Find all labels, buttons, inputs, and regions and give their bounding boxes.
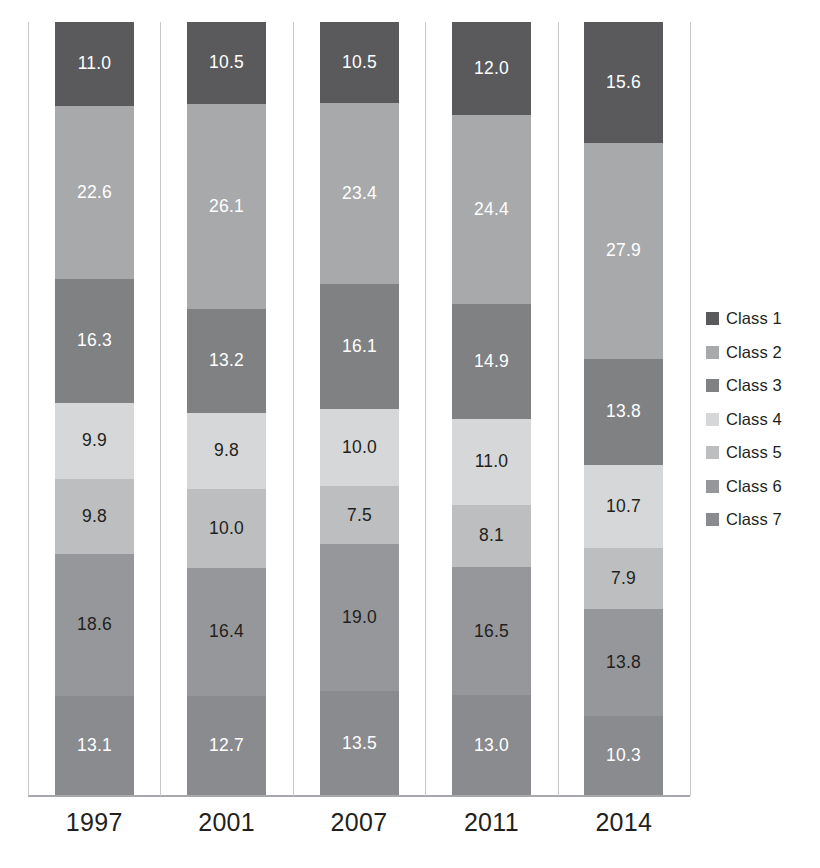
- bar-2014[interactable]: 15.627.913.810.77.913.810.3: [584, 22, 663, 796]
- grid-separator-line: [160, 22, 161, 796]
- segment-value-label: 9.8: [214, 442, 239, 460]
- bar-segment-2007-class-6[interactable]: 19.0: [320, 544, 399, 691]
- bar-segment-2014-class-7[interactable]: 10.3: [584, 716, 663, 796]
- segment-value-label: 7.9: [611, 570, 636, 588]
- segment-value-label: 16.3: [77, 332, 112, 350]
- segment-value-label: 7.5: [347, 507, 372, 525]
- bar-segment-2007-class-4[interactable]: 10.0: [320, 409, 399, 486]
- segment-value-label: 15.6: [606, 74, 641, 92]
- x-axis-tick-2011: 2011: [425, 808, 557, 837]
- bar-segment-2001-class-7[interactable]: 12.7: [187, 696, 266, 796]
- grid-separator-line: [425, 22, 426, 796]
- bar-segment-2001-class-2[interactable]: 26.1: [187, 104, 266, 309]
- legend-swatch-icon: [706, 346, 719, 359]
- legend-item-class-4[interactable]: Class 4: [706, 403, 812, 437]
- legend-item-class-5[interactable]: Class 5: [706, 436, 812, 470]
- bar-segment-2014-class-4[interactable]: 10.7: [584, 465, 663, 548]
- x-axis-tick-1997: 1997: [28, 808, 160, 837]
- segment-value-label: 9.8: [82, 508, 107, 526]
- bar-segment-2014-class-6[interactable]: 13.8: [584, 609, 663, 716]
- segment-value-label: 10.0: [209, 520, 244, 538]
- bar-segment-2014-class-5[interactable]: 7.9: [584, 548, 663, 609]
- grid-separator-line: [558, 22, 559, 796]
- segment-value-label: 10.5: [342, 54, 377, 72]
- legend-item-class-1[interactable]: Class 1: [706, 302, 812, 336]
- legend-label: Class 7: [726, 510, 782, 529]
- bar-segment-2011-class-1[interactable]: 12.0: [452, 22, 531, 115]
- grid-separator-line: [293, 22, 294, 796]
- bar-segment-2011-class-7[interactable]: 13.0: [452, 695, 531, 796]
- legend-label: Class 3: [726, 376, 782, 395]
- bar-segment-1997-class-2[interactable]: 22.6: [55, 106, 134, 279]
- bar-segment-2001-class-1[interactable]: 10.5: [187, 22, 266, 104]
- segment-value-label: 11.0: [78, 55, 112, 73]
- segment-value-label: 10.5: [209, 54, 244, 72]
- legend-label: Class 4: [726, 410, 782, 429]
- bar-2007[interactable]: 10.523.416.110.07.519.013.5: [320, 22, 399, 796]
- segment-value-label: 13.5: [342, 735, 377, 753]
- bar-segment-2011-class-4[interactable]: 11.0: [452, 419, 531, 504]
- bar-segment-2014-class-3[interactable]: 13.8: [584, 359, 663, 466]
- bar-segment-2011-class-6[interactable]: 16.5: [452, 567, 531, 695]
- segment-value-label: 27.9: [606, 242, 641, 260]
- bar-segment-2007-class-1[interactable]: 10.5: [320, 22, 399, 103]
- bar-segment-1997-class-6[interactable]: 18.6: [55, 554, 134, 696]
- legend-swatch-icon: [706, 513, 719, 526]
- segment-value-label: 24.4: [474, 201, 509, 219]
- stacked-bar-chart: 11.022.616.39.99.818.613.110.526.113.29.…: [0, 0, 820, 868]
- segment-value-label: 16.4: [209, 623, 244, 641]
- bar-segment-2007-class-3[interactable]: 16.1: [320, 284, 399, 409]
- legend-swatch-icon: [706, 480, 719, 493]
- segment-value-label: 12.7: [209, 737, 244, 755]
- legend-label: Class 6: [726, 477, 782, 496]
- legend-label: Class 2: [726, 343, 782, 362]
- segment-value-label: 12.0: [474, 60, 509, 78]
- segment-value-label: 13.0: [474, 737, 509, 755]
- segment-value-label: 8.1: [479, 527, 504, 545]
- bar-segment-2001-class-4[interactable]: 9.8: [187, 413, 266, 490]
- segment-value-label: 26.1: [209, 198, 244, 216]
- bar-1997[interactable]: 11.022.616.39.99.818.613.1: [55, 22, 134, 796]
- bar-segment-2011-class-3[interactable]: 14.9: [452, 304, 531, 419]
- bar-segment-1997-class-4[interactable]: 9.9: [55, 403, 134, 479]
- legend-swatch-icon: [706, 312, 719, 325]
- bar-segment-1997-class-7[interactable]: 13.1: [55, 696, 134, 796]
- plot-area: 11.022.616.39.99.818.613.110.526.113.29.…: [28, 22, 690, 796]
- segment-value-label: 23.4: [342, 185, 377, 203]
- legend-label: Class 1: [726, 309, 782, 328]
- x-axis-tick-2007: 2007: [293, 808, 425, 837]
- bar-segment-1997-class-3[interactable]: 16.3: [55, 279, 134, 404]
- bar-segment-2014-class-1[interactable]: 15.6: [584, 22, 663, 143]
- chart-title: [0, 0, 700, 8]
- legend-item-class-6[interactable]: Class 6: [706, 470, 812, 504]
- chart-legend: Class 1Class 2Class 3Class 4Class 5Class…: [706, 302, 812, 537]
- bar-segment-2007-class-7[interactable]: 13.5: [320, 691, 399, 795]
- bar-segment-2001-class-3[interactable]: 13.2: [187, 309, 266, 413]
- bar-2011[interactable]: 12.024.414.911.08.116.513.0: [452, 22, 531, 796]
- bar-segment-2007-class-5[interactable]: 7.5: [320, 486, 399, 544]
- legend-item-class-3[interactable]: Class 3: [706, 369, 812, 403]
- bar-segment-2001-class-5[interactable]: 10.0: [187, 489, 266, 567]
- x-axis-tick-2001: 2001: [160, 808, 292, 837]
- bar-2001[interactable]: 10.526.113.29.810.016.412.7: [187, 22, 266, 796]
- segment-value-label: 16.5: [474, 623, 509, 641]
- grid-separator-line: [690, 22, 691, 796]
- bar-segment-2011-class-2[interactable]: 24.4: [452, 115, 531, 304]
- segment-value-label: 19.0: [342, 609, 377, 627]
- segment-value-label: 10.0: [342, 439, 377, 457]
- bar-segment-2011-class-5[interactable]: 8.1: [452, 505, 531, 568]
- legend-item-class-7[interactable]: Class 7: [706, 503, 812, 537]
- segment-value-label: 10.3: [606, 747, 641, 765]
- legend-item-class-2[interactable]: Class 2: [706, 336, 812, 370]
- x-axis-baseline: [28, 795, 690, 797]
- segment-value-label: 22.6: [77, 184, 112, 202]
- segment-value-label: 10.7: [606, 498, 641, 516]
- bar-segment-2007-class-2[interactable]: 23.4: [320, 103, 399, 284]
- segment-value-label: 14.9: [474, 353, 509, 371]
- bar-segment-1997-class-1[interactable]: 11.0: [55, 22, 134, 106]
- bar-segment-2001-class-6[interactable]: 16.4: [187, 568, 266, 697]
- legend-swatch-icon: [706, 379, 719, 392]
- bar-segment-1997-class-5[interactable]: 9.8: [55, 479, 134, 554]
- legend-label: Class 5: [726, 443, 782, 462]
- bar-segment-2014-class-2[interactable]: 27.9: [584, 143, 663, 359]
